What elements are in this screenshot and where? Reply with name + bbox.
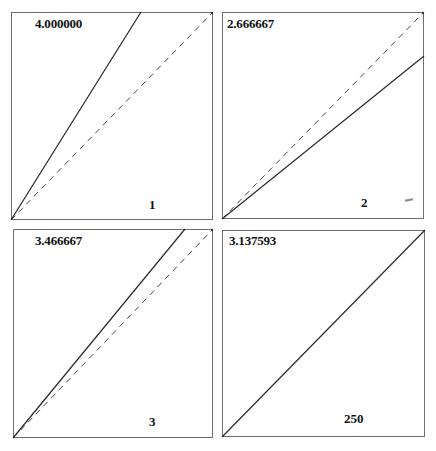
- value-label: 3.137593: [229, 233, 276, 249]
- dashed-reference-line: [11, 12, 213, 220]
- solid-data-line: [222, 56, 424, 219]
- index-label: 250: [344, 411, 364, 427]
- corner-point: [211, 12, 213, 14]
- solid-data-line: [11, 12, 141, 220]
- dashed-reference-line: [13, 229, 213, 438]
- plot-area: [222, 12, 424, 219]
- chart-panel-1: 4.000000 1: [11, 12, 213, 220]
- plot-area: [222, 230, 425, 437]
- chart-panel-3: 3.466667 3: [13, 229, 213, 438]
- solid-data-line: [222, 230, 425, 437]
- index-label: 3: [149, 414, 156, 430]
- index-label: 1: [149, 197, 156, 213]
- plot-area: [11, 12, 213, 220]
- corner-point: [422, 12, 424, 14]
- corner-point: [211, 229, 213, 231]
- chart-panel-250: 3.137593 250: [222, 230, 425, 437]
- value-label: 2.666667: [227, 16, 274, 32]
- plot-area: [13, 229, 213, 438]
- chart-panel-2: 2.666667 2: [222, 12, 424, 219]
- solid-data-line: [13, 229, 185, 438]
- dashed-reference-line: [222, 12, 424, 219]
- index-label: 2: [361, 195, 368, 211]
- value-label: 4.000000: [35, 16, 82, 32]
- value-label: 3.466667: [35, 233, 82, 249]
